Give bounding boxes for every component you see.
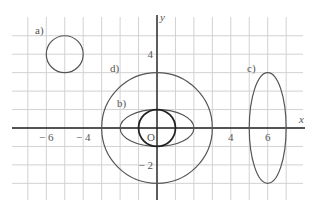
x-tick-label: − 6 [39, 131, 54, 143]
axes [12, 15, 305, 200]
x-tick-label: − 4 [76, 131, 91, 143]
y-axis-label: y [159, 11, 165, 23]
x-axis-label: x [298, 113, 304, 125]
origin-label: O [147, 131, 155, 143]
x-tick-label: 4 [228, 131, 234, 143]
curve-label-d: d) [110, 62, 120, 75]
curve-label-c: c) [247, 62, 256, 75]
y-tick-label: 4 [148, 48, 154, 60]
x-tick-label: 6 [265, 131, 271, 143]
y-tick-label: − 2 [139, 159, 153, 171]
curve-label-a: a) [35, 24, 44, 37]
coordinate-diagram: xyO− 6− 4464− 2a)b)c)d) [0, 0, 313, 204]
curve-label-b: b) [117, 97, 127, 110]
